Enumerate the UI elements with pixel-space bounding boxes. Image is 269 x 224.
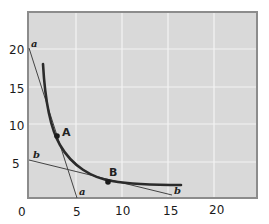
x-tick-5: 5 <box>73 205 81 219</box>
y-tick-5: 5 <box>12 157 20 171</box>
line-a-top-label: a <box>31 38 37 49</box>
x-tick-15: 15 <box>163 204 178 218</box>
line-a-bottom-label: a <box>79 186 85 197</box>
line-b-left-label: b <box>33 149 40 160</box>
point-a-marker <box>54 133 60 139</box>
point-b-label: B <box>109 166 117 179</box>
x-tick-10: 10 <box>115 204 130 218</box>
x-tick-0: 0 <box>18 205 26 219</box>
y-tick-20: 20 <box>9 43 24 57</box>
chart: A B a a b b 20 15 10 5 0 5 10 15 20 <box>0 0 269 224</box>
point-b-marker <box>105 179 111 185</box>
plot-area <box>28 12 257 198</box>
y-tick-15: 15 <box>9 82 24 96</box>
point-a-label: A <box>62 126 71 139</box>
y-tick-10: 10 <box>9 119 24 133</box>
x-tick-20: 20 <box>209 203 224 217</box>
line-b-right-label: b <box>174 185 181 196</box>
